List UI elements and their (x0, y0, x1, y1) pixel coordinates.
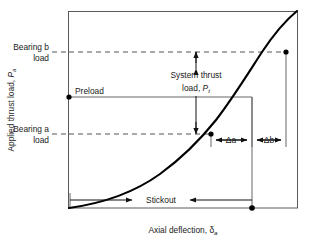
y-axis-label-subscript: a (10, 68, 17, 72)
y-axis-label-main: Applied thrust load, (6, 78, 16, 152)
x-axis-label-subscript: a (214, 229, 218, 236)
load-deflection-curve (69, 11, 297, 208)
preload-point-marker (66, 94, 71, 99)
system-thrust-subscript: t (208, 87, 210, 94)
system-thrust-load-word: load, (182, 83, 203, 93)
system-thrust-label-line2: load, Pt (182, 83, 210, 94)
bearing-a-label-line1: Bearing a (13, 124, 49, 134)
delta-a-label: Δa (226, 135, 237, 145)
bearing-b-point-marker (283, 49, 288, 54)
bearing-b-label-line1: Bearing b (13, 42, 49, 52)
chart-svg: Bearing b load Preload Bearing a load Sy… (0, 0, 312, 239)
bearing-a-label-line2: load (33, 135, 49, 145)
stickout-axis-point-marker (249, 205, 255, 211)
chart-figure: Bearing b load Preload Bearing a load Sy… (0, 0, 312, 239)
system-thrust-label-line1: System thrust (170, 70, 222, 80)
preload-label: Preload (75, 86, 104, 96)
delta-b-label: Δb (264, 135, 275, 145)
stickout-label: Stickout (146, 195, 176, 205)
plot-frame (69, 12, 298, 209)
bearing-a-point-marker (208, 131, 213, 136)
x-axis-label: Axial deflection, δa (148, 225, 218, 236)
y-axis-label: Applied thrust load, Pa (6, 68, 17, 152)
bearing-b-label-line2: load (33, 53, 49, 63)
x-axis-label-main: Axial deflection, (148, 225, 209, 235)
